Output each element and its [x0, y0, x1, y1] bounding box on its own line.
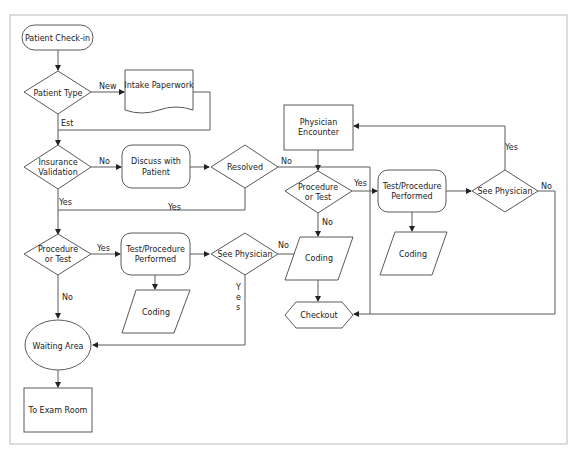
node-label: Coding: [142, 308, 170, 317]
node-label: Performed: [135, 255, 176, 264]
node-label: Physician: [300, 118, 338, 127]
node-label: Validation: [38, 168, 78, 177]
edge-label-insurance-no: No: [99, 157, 110, 166]
node-label: To Exam Room: [28, 406, 88, 415]
edge-label-seephys2-yes: Yes: [504, 143, 518, 152]
node-to-exam-room[interactable]: To Exam Room: [24, 388, 92, 432]
node-label: Performed: [391, 192, 432, 201]
edge-label-resolved-yes: Yes: [167, 203, 181, 212]
node-label: or Test: [305, 193, 331, 202]
node-label: Discuss with: [131, 157, 181, 166]
node-intake-paperwork[interactable]: Intake Paperwork: [124, 70, 194, 113]
edge-label-est: Est: [61, 119, 73, 128]
edge-label-new: New: [99, 82, 117, 91]
node-label: Coding: [305, 254, 333, 263]
flowchart-canvas: Patient Check-in Patient Type Intake Pap…: [0, 0, 576, 450]
edge-label-seephys2-no: No: [541, 182, 552, 191]
diagram-frame: [10, 15, 567, 444]
edge-label-seephys1-yes-s: s: [236, 303, 240, 312]
edge-label-proc1-no: No: [62, 293, 73, 302]
edge-label-seephys1-yes-y: Y: [235, 283, 241, 292]
node-checkout[interactable]: Checkout: [285, 302, 353, 328]
edge-label-resolved-no: No: [281, 157, 292, 166]
edge-label-proc2-yes: Yes: [353, 179, 367, 188]
node-patient-checkin[interactable]: Patient Check-in: [22, 25, 93, 50]
node-label: Procedure: [298, 183, 338, 192]
node-label: Test/Procedure: [125, 245, 185, 254]
node-label: Resolved: [227, 163, 263, 172]
node-label: Insurance: [38, 158, 77, 167]
node-label: Coding: [399, 250, 427, 259]
edge-label-seephys1-yes-e: e: [236, 293, 241, 302]
edge-label-proc2-no: No: [322, 218, 333, 227]
edge-label-insurance-yes: Yes: [58, 198, 72, 207]
node-waiting-area[interactable]: Waiting Area: [25, 320, 91, 370]
node-test-procedure-performed-2[interactable]: Test/Procedure Performed: [378, 170, 446, 212]
node-physician-encounter[interactable]: Physician Encounter: [284, 105, 353, 150]
node-label: Procedure: [38, 245, 78, 254]
node-label: Patient: [142, 168, 170, 177]
node-label: Intake Paperwork: [124, 81, 194, 90]
node-label: Patient Check-in: [25, 34, 90, 43]
node-label: Encounter: [298, 128, 340, 137]
edge-label-seephys1-no: No: [278, 241, 289, 250]
node-label: or Test: [45, 255, 71, 264]
edge-label-proc1-yes: Yes: [96, 244, 110, 253]
node-label: Waiting Area: [33, 342, 84, 351]
node-label: See Physician: [477, 187, 532, 196]
node-label: Patient Type: [34, 89, 83, 98]
node-label: Test/Procedure: [382, 182, 442, 191]
node-label: Checkout: [300, 311, 337, 320]
node-label: See Physician: [217, 250, 272, 259]
node-discuss-with-patient[interactable]: Discuss with Patient: [122, 145, 190, 188]
node-test-procedure-performed-1[interactable]: Test/Procedure Performed: [121, 233, 190, 275]
